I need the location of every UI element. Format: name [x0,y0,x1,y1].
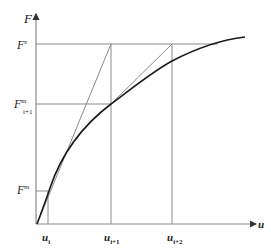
y-axis-label: F [23,11,33,26]
secant-method-diagram: F u Fs Fm i+1 Fm ui ui+1 ui+2 [0,0,271,250]
secant-1 [37,44,111,224]
label-fs: Fs [16,38,27,52]
label-ui2: ui+2 [167,231,183,246]
x-axis-label: u [258,218,264,230]
label-ui1: ui+1 [104,231,120,246]
force-displacement-curve [37,37,245,224]
label-ui: ui [42,231,50,246]
label-fm-i1-sub: i+1 [23,108,33,116]
label-fm: Fm [16,183,29,197]
secant-2 [111,44,172,104]
